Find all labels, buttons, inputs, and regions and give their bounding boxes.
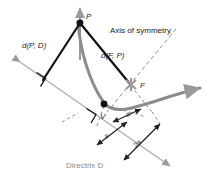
parabola-figure-container: P F V d(P, D) d(F, P) Axis of symmetry D… <box>0 0 212 177</box>
label-directrix: Directrix D <box>66 161 104 170</box>
label-axis-of-symmetry: Axis of symmetry <box>110 26 171 35</box>
label-point-p: P <box>86 12 92 21</box>
label-point-v: V <box>100 112 106 121</box>
point-v-marker <box>101 101 108 108</box>
parabola-diagram: P F V d(P, D) d(F, P) Axis of symmetry D… <box>0 0 212 177</box>
point-p-marker <box>77 20 84 27</box>
label-distance-f-p: d(F, P) <box>101 51 125 60</box>
label-distance-p-directrix: d(P, D) <box>22 41 47 50</box>
figure-background <box>0 0 212 177</box>
